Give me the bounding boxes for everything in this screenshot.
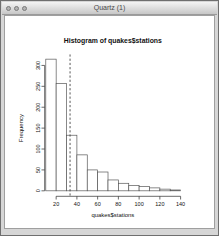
y-tick-label: 200: [35, 103, 41, 112]
y-tick-label: 250: [35, 82, 41, 91]
histogram-bar: [108, 180, 118, 191]
screenshot-stage: Quartz (1) 050100150200250300Frequency20…: [0, 0, 219, 236]
y-tick-label: 300: [35, 61, 41, 70]
window-titlebar[interactable]: Quartz (1): [2, 2, 217, 15]
histogram-bar: [149, 188, 159, 191]
histogram-bar: [67, 135, 77, 191]
y-tick-label: 50: [35, 167, 41, 173]
y-axis-title: Frequency: [18, 114, 24, 142]
y-tick-label: 0: [35, 189, 41, 192]
plot-canvas: 050100150200250300Frequency2040608010012…: [4, 15, 215, 229]
zoom-button[interactable]: [22, 6, 27, 11]
histogram-bar: [77, 155, 87, 191]
x-tick-label: 40: [74, 201, 80, 207]
x-tick-label: 140: [176, 201, 185, 207]
histogram-bar: [87, 170, 97, 191]
x-tick-label: 100: [135, 201, 144, 207]
y-tick-label: 100: [35, 144, 41, 153]
y-tick-label: 150: [35, 124, 41, 133]
histogram-bar: [118, 183, 128, 191]
close-button[interactable]: [6, 6, 11, 11]
histogram-bar: [129, 185, 139, 190]
chart-title: Histogram of quakes$stations: [64, 37, 162, 45]
histogram-bar: [46, 59, 56, 191]
histogram-chart: 050100150200250300Frequency2040608010012…: [5, 16, 218, 232]
minimize-button[interactable]: [14, 6, 19, 11]
x-tick-label: 20: [53, 201, 59, 207]
x-tick-label: 80: [115, 201, 121, 207]
x-axis-title: quakes$stations: [91, 212, 134, 218]
histogram-bar: [98, 172, 108, 191]
histogram-bar: [56, 83, 66, 190]
histogram-bar: [139, 187, 149, 191]
histogram-bar: [170, 190, 180, 191]
x-tick-label: 60: [95, 201, 101, 207]
quartz-plot-window: Quartz (1) 050100150200250300Frequency20…: [0, 0, 219, 236]
window-title: Quartz (1): [2, 2, 217, 14]
x-tick-label: 120: [155, 201, 164, 207]
histogram-bar: [160, 189, 170, 191]
window-controls: [6, 6, 27, 11]
